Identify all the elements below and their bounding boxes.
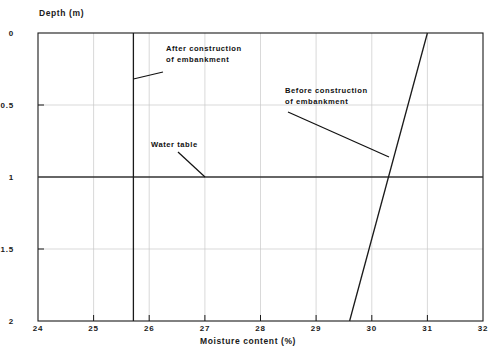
water-table-leader (178, 152, 205, 177)
annotation-after-construction: After construction of embankment (166, 43, 242, 65)
plot-canvas (0, 0, 503, 354)
chart-figure: Depth (m) Moisture content (%) 0 0.5 1 1… (0, 0, 503, 354)
annotation-before-construction: Before construction of embankment (285, 85, 368, 107)
annotation-after-line2: of embankment (166, 54, 242, 65)
annotation-water-line1: Water table (151, 139, 198, 150)
after-construction-leader (133, 72, 163, 79)
annotation-before-line1: Before construction (285, 85, 368, 96)
annotation-water-table: Water table (151, 139, 198, 150)
annotation-after-line1: After construction (166, 43, 242, 54)
annotation-before-line2: of embankment (285, 96, 368, 107)
before-construction-leader (288, 112, 389, 157)
axis-ticks (38, 105, 427, 321)
